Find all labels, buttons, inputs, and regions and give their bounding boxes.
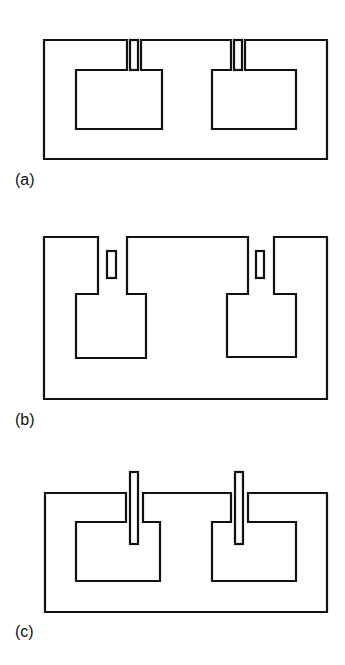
panel-c-label: (c) <box>15 623 34 641</box>
panel-b-slot-left <box>107 251 116 278</box>
panel-c-core-outline <box>45 493 327 612</box>
panel-a-drawing <box>44 40 327 159</box>
panel-b-core-outline <box>44 237 327 399</box>
diagram-canvas <box>0 0 345 665</box>
panel-b-label: (b) <box>15 411 35 429</box>
panel-c-bar-left <box>130 472 138 544</box>
panel-a-slot-right <box>234 40 242 70</box>
panel-c-drawing <box>45 472 327 612</box>
panel-c-bar-right <box>235 472 243 544</box>
panel-a-core-outline <box>44 40 327 159</box>
panel-b-slot-right <box>256 251 264 278</box>
panel-b-drawing <box>44 237 327 399</box>
panel-a-label: (a) <box>15 171 35 189</box>
panel-a-slot-left <box>130 40 138 70</box>
